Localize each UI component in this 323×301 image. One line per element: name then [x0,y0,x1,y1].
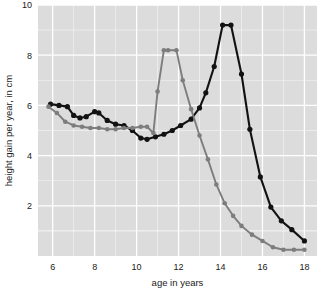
data-point [206,157,211,162]
data-point [189,107,194,112]
data-point [88,126,93,131]
data-point [197,105,202,110]
data-point [268,204,273,209]
data-point [77,115,82,120]
data-point [260,239,265,244]
data-point [212,64,217,69]
data-point [222,201,227,206]
data-point [289,227,294,232]
data-point [138,124,143,129]
data-point [151,131,156,136]
data-point [281,247,286,252]
data-point [239,224,244,229]
y-axis-title: height gain per year, in cm [3,75,14,187]
x-axis-title: age in years [152,277,204,288]
x-tick-label: 14 [215,262,225,272]
data-point [80,124,85,129]
data-point [71,113,76,118]
data-point [122,126,127,131]
data-point [166,48,171,53]
data-point [162,48,167,53]
data-point [138,135,143,140]
y-tick-label: 10 [22,0,32,10]
growth-velocity-chart: 681012141618 246810 age in years height … [0,0,323,301]
data-point [279,218,284,223]
chart-container: 681012141618 246810 age in years height … [0,0,323,301]
data-point [55,111,60,116]
x-tick-label: 8 [92,262,97,272]
x-tick-label: 10 [132,262,142,272]
data-point [84,114,89,119]
data-point [96,110,101,115]
data-point [46,104,51,109]
data-point [56,103,61,108]
x-tick-label: 12 [174,262,184,272]
data-point [250,232,255,237]
data-point [271,245,276,250]
y-tick-label: 8 [27,51,32,61]
data-point [97,126,102,131]
data-point [239,71,244,76]
data-point [145,124,150,129]
data-point [302,247,307,252]
y-tick-label: 4 [27,151,32,161]
data-point [174,48,179,53]
y-tick-label: 2 [27,201,32,211]
data-point [214,182,219,187]
y-tick-label: 6 [27,101,32,111]
data-point [228,22,233,27]
data-point [71,123,76,128]
data-point [130,126,135,131]
data-point [197,133,202,138]
data-point [113,127,118,132]
data-point [180,78,185,83]
data-point [178,123,183,128]
data-point [65,104,70,109]
data-point [258,174,263,179]
data-point [105,127,110,132]
data-point [220,22,225,27]
data-point [302,238,307,243]
data-point [292,247,297,252]
data-point [231,214,236,219]
data-point [113,122,118,127]
x-tick-label: 16 [257,262,267,272]
data-point [144,137,149,142]
data-point [170,128,175,133]
data-point [247,127,252,132]
data-point [203,90,208,95]
data-point [105,118,110,123]
data-point [63,119,68,124]
data-point [155,89,160,94]
data-point [161,132,166,137]
x-tick-label: 18 [299,262,309,272]
x-tick-label: 6 [50,262,55,272]
